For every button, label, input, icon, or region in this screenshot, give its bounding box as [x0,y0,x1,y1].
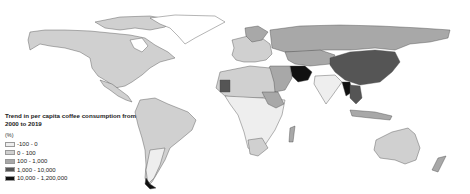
legend-swatch [5,176,15,181]
legend-label: 0 - 100 [17,150,36,156]
legend-item: 10,000 - 1,200,000 [5,174,145,183]
region-australia [374,128,420,164]
region-se-asia [350,85,362,104]
legend-swatch [5,150,15,155]
region-india [314,75,342,104]
map-legend: Trend in per capita coffee consumption f… [5,112,145,183]
legend-label: 1,000 - 10,000 [17,167,56,173]
region-iran [290,66,312,82]
region-greenland [150,15,225,44]
legend-label: 100 - 1,000 [17,158,47,164]
region-mauritania [220,80,230,92]
legend-swatch [5,167,15,172]
legend-item: 100 - 1,000 [5,157,145,166]
legend-title: Trend in per capita coffee consumption f… [5,112,145,127]
legend-item: 1,000 - 10,000 [5,166,145,175]
legend-swatch [5,142,15,147]
legend-item: -100 - 0 [5,140,145,149]
region-central-asia [285,50,335,66]
region-china [330,50,400,85]
region-new-zealand [432,156,446,172]
region-madagascar [289,126,295,142]
legend-label: 10,000 - 1,200,000 [17,175,67,181]
region-indonesia [350,110,392,120]
region-north-america [28,30,175,88]
legend-unit: (%) [5,132,145,138]
legend-item: 0 - 100 [5,149,145,158]
region-russia [270,25,450,52]
legend-swatch [5,159,15,164]
legend-label: -100 - 0 [17,141,38,147]
